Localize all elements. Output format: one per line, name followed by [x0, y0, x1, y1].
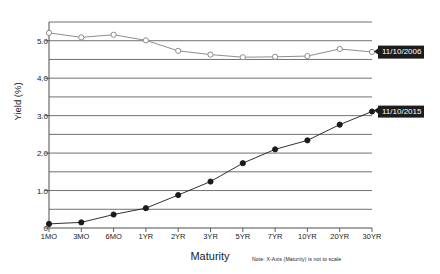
x-axis-tick-label-3mo: 3MO [73, 232, 89, 241]
x-axis-tick-label-1mo: 1MO [41, 232, 57, 241]
data-point-marker [111, 212, 116, 217]
data-point-marker [240, 55, 245, 60]
x-axis-tick-label-3yr: 3YR [203, 232, 218, 241]
y-axis-tick-label: 4.0 [22, 74, 48, 83]
x-axis-tick-label-6mo: 6MO [105, 232, 121, 241]
data-point-marker [143, 38, 148, 43]
data-point-marker [79, 35, 84, 40]
x-axis-tick-label-30yr: 30YR [363, 232, 382, 241]
data-point-marker [208, 179, 213, 184]
x-axis-tick-label-2yr: 2YR [171, 232, 186, 241]
yield-curve-chart: Yield (%) Maturity Note: X-Axis (Maturit… [0, 0, 440, 274]
x-axis-tick-label-20yr: 20YR [330, 232, 349, 241]
x-axis-tick-label-5yr: 5YR [236, 232, 251, 241]
data-point-marker [337, 122, 342, 127]
y-axis-tick-label: 2.0 [22, 149, 48, 158]
data-point-marker [305, 53, 310, 58]
data-point-marker [240, 161, 245, 166]
series-callout-2: 11/10/2015 [378, 105, 424, 118]
data-point-marker [273, 147, 278, 152]
series-line-2 [49, 112, 372, 224]
x-axis-tick-label-1yr: 1YR [139, 232, 154, 241]
y-axis-tick-label: 3.0 [22, 111, 48, 120]
chart-note: Note: X-Axis (Maturity) is not to scale [252, 256, 341, 262]
y-axis-tick-label: 1.0 [22, 186, 48, 195]
data-point-marker [337, 46, 342, 51]
data-point-marker [273, 54, 278, 59]
data-point-marker [176, 192, 181, 197]
x-axis-tick-label-7yr: 7YR [268, 232, 283, 241]
data-point-marker [111, 32, 116, 37]
data-point-marker [143, 206, 148, 211]
series-callout-1: 11/10/2006 [378, 46, 424, 59]
data-point-marker [176, 48, 181, 53]
data-point-marker [305, 138, 310, 143]
data-point-marker [79, 220, 84, 225]
y-axis-tick-label: 5.0 [22, 36, 48, 45]
x-axis-tick-label-10yr: 10YR [298, 232, 317, 241]
data-point-marker [208, 52, 213, 57]
